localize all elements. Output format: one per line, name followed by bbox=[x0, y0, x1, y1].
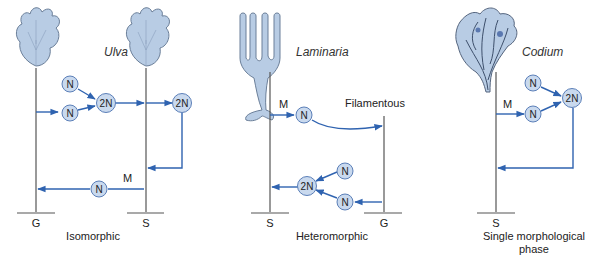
ulva-thallus-icon-2 bbox=[126, 8, 169, 66]
species-label-codium: Codium bbox=[522, 45, 563, 59]
haploid-node: N bbox=[337, 194, 353, 210]
svg-text:N: N bbox=[529, 109, 536, 120]
haploid-node: N bbox=[296, 107, 312, 123]
svg-text:N: N bbox=[341, 197, 348, 208]
caption-single-phase-line1: Single morphological bbox=[483, 230, 585, 242]
diploid-node: 2N bbox=[563, 89, 582, 108]
svg-text:N: N bbox=[95, 184, 102, 195]
panel-ulva: Ulva N N 2N 2N N M G S Isomorphic bbox=[16, 8, 191, 242]
phase-label-filamentous: Filamentous bbox=[345, 97, 405, 109]
ulva-thallus-icon bbox=[16, 8, 59, 66]
base-label-gametophyte: G bbox=[380, 217, 389, 229]
haploid-node: N bbox=[525, 75, 541, 91]
haploid-node: N bbox=[337, 163, 353, 179]
haploid-node: N bbox=[62, 105, 78, 121]
diploid-node: 2N bbox=[173, 94, 192, 113]
svg-text:N: N bbox=[300, 110, 307, 121]
arrow bbox=[541, 102, 561, 111]
meiosis-label: M bbox=[123, 172, 132, 184]
svg-text:N: N bbox=[66, 79, 73, 90]
species-label-laminaria: Laminaria bbox=[296, 45, 349, 59]
svg-text:2N: 2N bbox=[566, 93, 579, 104]
haploid-node: N bbox=[62, 76, 78, 92]
arrow bbox=[312, 120, 382, 129]
arrow bbox=[316, 190, 337, 198]
base-label-sporophyte: S bbox=[266, 217, 273, 229]
base-label-sporophyte: S bbox=[142, 217, 149, 229]
haploid-node: N bbox=[525, 106, 541, 122]
arrow bbox=[78, 89, 95, 99]
svg-text:2N: 2N bbox=[100, 98, 113, 109]
diploid-node: 2N bbox=[97, 94, 116, 113]
panel-codium: Codium M N N 2N S Single morphological p… bbox=[456, 8, 585, 255]
life-cycle-diagram: Ulva N N 2N 2N N M G S Isomorphic Lamina… bbox=[0, 0, 601, 267]
species-label-ulva: Ulva bbox=[104, 45, 128, 59]
arrow bbox=[316, 172, 337, 181]
codium-thallus-icon bbox=[456, 8, 517, 92]
base-label-gametophyte: G bbox=[32, 217, 41, 229]
svg-text:N: N bbox=[66, 108, 73, 119]
arrow bbox=[148, 113, 182, 168]
laminaria-thallus-icon bbox=[240, 13, 280, 121]
haploid-node: N bbox=[91, 181, 107, 197]
base-label-sporophyte: S bbox=[492, 217, 499, 229]
arrow bbox=[78, 106, 95, 110]
panel-laminaria: Laminaria M Filamentous N N N 2N S G Het… bbox=[240, 13, 405, 242]
meiosis-label: M bbox=[279, 98, 288, 110]
diploid-node: 2N bbox=[298, 177, 317, 196]
svg-text:2N: 2N bbox=[176, 98, 189, 109]
meiosis-label: M bbox=[503, 98, 512, 110]
svg-text:N: N bbox=[529, 78, 536, 89]
caption-heteromorphic: Heteromorphic bbox=[296, 230, 369, 242]
caption-isomorphic: Isomorphic bbox=[66, 230, 120, 242]
arrow bbox=[541, 87, 561, 96]
svg-text:2N: 2N bbox=[301, 181, 314, 192]
svg-text:N: N bbox=[341, 166, 348, 177]
caption-single-phase-line2: phase bbox=[519, 243, 549, 255]
